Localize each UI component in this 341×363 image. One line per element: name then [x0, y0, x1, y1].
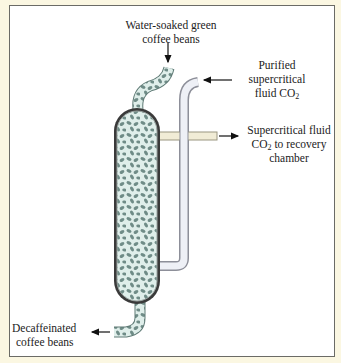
- label-output-beans-line1: Decaffeinated: [12, 321, 96, 335]
- label-co2-outlet-line1: Supercritical fluid: [240, 123, 338, 137]
- decaffeination-column-diagram: [0, 0, 341, 363]
- extraction-column: [114, 108, 160, 304]
- label-co2-inlet: Purified supercritical fluid CO2: [236, 58, 318, 100]
- label-co2-inlet-line1: Purified: [236, 58, 318, 72]
- bean-output-tube: [114, 300, 140, 332]
- label-input-beans-line2: coffee beans: [116, 32, 226, 46]
- label-output-beans-line2: coffee beans: [12, 335, 96, 349]
- label-output-beans: Decaffeinated coffee beans: [12, 321, 96, 349]
- label-input-beans-line1: Water-soaked green: [116, 18, 226, 32]
- co2-inlet-pipe: [158, 82, 198, 266]
- label-input-beans: Water-soaked green coffee beans: [116, 18, 226, 46]
- label-co2-inlet-line3: fluid CO2: [236, 86, 318, 100]
- label-co2-outlet-line2: CO2 to recovery: [240, 137, 338, 151]
- label-co2-outlet: Supercritical fluid CO2 to recovery cham…: [240, 123, 338, 165]
- label-co2-inlet-line2: supercritical: [236, 72, 318, 86]
- co2-outlet-pipe: [155, 131, 217, 141]
- bean-input-tube: [138, 68, 169, 110]
- label-co2-outlet-line3: chamber: [240, 151, 338, 165]
